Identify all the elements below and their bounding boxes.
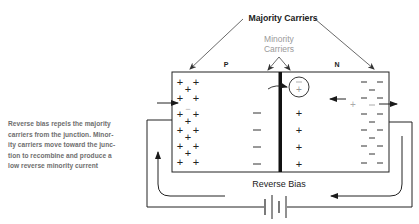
svg-text:+: + [185,131,191,143]
minority-carriers-label-line2: Carriers [264,44,294,54]
battery-icon [265,195,286,219]
left-current-arrow [158,152,225,196]
svg-text:+: + [193,156,199,168]
svg-text:+: + [296,124,302,136]
n-region-minority-hole: + [350,99,356,110]
minority-carriers-label-line1: Minority [264,34,295,44]
svg-text:+: + [177,124,183,136]
svg-text:+: + [185,147,191,159]
svg-text:+: + [193,140,199,152]
svg-text:+: + [177,156,183,168]
caption-line: low reverse minority current [8,161,134,172]
svg-text:+: + [193,108,199,120]
p-region-minority-electron: − [185,104,190,114]
svg-text:+: + [193,92,199,104]
n-region-electrons [361,82,383,163]
majority-pointer-right [315,19,374,69]
caption-line: ity carriers move toward the junc- [8,140,134,151]
junction-barrier [279,72,283,172]
caption-line: Reverse bias repels the majority [8,119,134,130]
pn-junction-diagram: Majority Carriers Minority Carriers P N … [0,0,419,224]
right-current-arrow [331,136,402,196]
caption-line: tion to recombine and produce a [8,151,134,162]
svg-text:+: + [193,76,199,88]
svg-text:+: + [185,83,191,95]
minority-pointer-left [268,57,279,70]
svg-text:+: + [177,140,183,152]
caption-line: carriers from the junction. Minor- [8,130,134,141]
left-circuit-wire [147,120,264,207]
p-side-depletion-ions [253,113,261,164]
n-region-label: N [334,61,339,68]
reverse-bias-label: Reverse Bias [252,179,306,189]
n-side-depletion-ions: + + + + [296,107,302,170]
caption-text: Reverse bias repels the majority carrier… [8,119,134,172]
majority-pointer-left [190,19,243,69]
svg-text:+: + [177,108,183,120]
p-region-holes: ++ + ++ ++ + ++ + ++ + ++ [177,76,199,168]
minority-pointer-right [279,57,290,70]
right-circuit-wire [287,122,412,207]
p-region-label: P [224,61,229,68]
svg-text:+: + [185,115,191,127]
majority-carriers-label: Majority Carriers [248,13,317,23]
svg-text:+: + [193,124,199,136]
minority-arrow-to-circle [268,86,287,89]
svg-text:+: + [177,76,183,88]
svg-text:+: + [177,92,183,104]
svg-text:+: + [296,141,302,153]
circle-hole: + [296,84,302,95]
svg-text:+: + [296,107,302,119]
svg-text:+: + [296,158,302,170]
